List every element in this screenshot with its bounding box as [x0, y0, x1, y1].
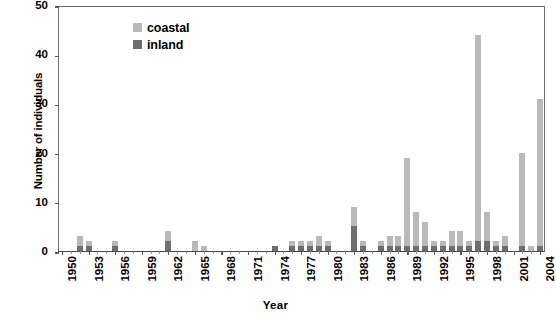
bar-1990 — [413, 212, 419, 251]
x-tick-mark-minor — [97, 251, 98, 254]
bar-segment-coastal — [404, 158, 410, 247]
bar-segment-coastal — [502, 236, 508, 246]
y-tick-mark — [55, 56, 59, 57]
bar-segment-coastal — [112, 241, 118, 246]
bar-1989 — [404, 158, 410, 251]
bar-1992 — [431, 241, 437, 251]
x-tick-mark-major — [354, 251, 355, 255]
x-tick-mark-minor — [133, 251, 134, 254]
bar-1956 — [112, 241, 118, 251]
bar-1962 — [165, 231, 171, 251]
x-tick-mark-minor — [319, 251, 320, 254]
bar-segment-coastal — [449, 231, 455, 246]
x-tick-mark-minor — [425, 251, 426, 254]
x-tick-label: 1998 — [492, 256, 503, 296]
bar-series-container — [59, 7, 544, 251]
x-tick-mark-minor — [230, 251, 231, 254]
x-tick-label: 1971 — [253, 256, 264, 296]
bar-segment-inland — [165, 241, 171, 251]
y-tick-mark — [55, 6, 59, 7]
bar-segment-coastal — [307, 241, 313, 246]
x-tick-mark-minor — [363, 251, 364, 254]
x-tick-mark-minor — [292, 251, 293, 254]
bar-segment-coastal — [165, 231, 171, 241]
bar-2002 — [519, 153, 525, 251]
bar-1965 — [192, 241, 198, 251]
bar-segment-coastal — [325, 241, 331, 246]
x-tick-mark-minor — [345, 251, 346, 254]
bar-segment-coastal — [519, 153, 525, 246]
y-tick-label: 10 — [20, 197, 48, 208]
bar-1998 — [484, 212, 490, 251]
bar-1987 — [387, 236, 393, 251]
x-tick-label: 1962 — [173, 256, 184, 296]
bar-segment-coastal — [289, 241, 295, 246]
bar-segment-coastal — [387, 236, 393, 246]
y-tick-mark — [55, 105, 59, 106]
x-tick-mark-minor — [443, 251, 444, 254]
x-tick-mark-minor — [496, 251, 497, 254]
x-tick-mark-major — [328, 251, 329, 255]
x-tick-label: 1977 — [306, 256, 317, 296]
x-tick-label: 1965 — [200, 256, 211, 296]
bar-1996 — [466, 241, 472, 251]
bar-segment-inland — [475, 241, 481, 251]
x-tick-mark-major — [168, 251, 169, 255]
x-tick-mark-minor — [336, 251, 337, 254]
bar-segment-inland — [351, 226, 357, 251]
x-tick-label: 1974 — [280, 256, 291, 296]
bar-segment-coastal — [431, 241, 437, 246]
x-tick-label: 2004 — [545, 256, 556, 296]
x-tick-label: 1983 — [359, 256, 370, 296]
x-tick-mark-major — [142, 251, 143, 255]
x-tick-label: 1989 — [412, 256, 423, 296]
bar-segment-coastal — [537, 99, 543, 247]
x-tick-mark-minor — [398, 251, 399, 254]
x-tick-mark-major — [62, 251, 63, 255]
bar-segment-coastal — [378, 241, 384, 246]
bar-1997 — [475, 35, 481, 251]
x-tick-label: 1995 — [465, 256, 476, 296]
x-tick-label: 1968 — [226, 256, 237, 296]
bar-segment-coastal — [316, 236, 322, 246]
x-tick-mark-minor — [283, 251, 284, 254]
bar-1988 — [395, 236, 401, 251]
bar-2004 — [537, 98, 543, 251]
y-tick-label: 40 — [20, 49, 48, 60]
bar-segment-inland — [484, 241, 490, 251]
y-tick-label: 20 — [20, 148, 48, 159]
x-tick-mark-major — [407, 251, 408, 255]
bar-segment-coastal — [413, 212, 419, 246]
bar-segment-coastal — [351, 207, 357, 227]
bar-1995 — [457, 231, 463, 251]
x-tick-mark-major — [89, 251, 90, 255]
bar-2000 — [502, 236, 508, 251]
x-tick-mark-minor — [204, 251, 205, 254]
x-tick-mark-major — [275, 251, 276, 255]
bar-1979 — [316, 236, 322, 251]
bar-1986 — [378, 241, 384, 251]
bar-1984 — [360, 241, 366, 251]
x-tick-mark-minor — [372, 251, 373, 254]
x-tick-mark-major — [381, 251, 382, 255]
y-tick-label: 30 — [20, 98, 48, 109]
y-tick-label: 0 — [20, 246, 48, 257]
bar-1977 — [298, 241, 304, 251]
plot-area: coastalinland — [58, 6, 545, 252]
y-tick-mark — [55, 154, 59, 155]
x-tick-mark-minor — [151, 251, 152, 254]
x-tick-mark-minor — [452, 251, 453, 254]
x-axis-title: Year — [0, 299, 551, 311]
bar-segment-coastal — [493, 241, 499, 246]
y-tick-label: 50 — [20, 0, 48, 11]
x-tick-mark-major — [460, 251, 461, 255]
x-tick-mark-major — [195, 251, 196, 255]
x-tick-mark-minor — [390, 251, 391, 254]
x-tick-mark-minor — [106, 251, 107, 254]
x-tick-mark-major — [540, 251, 541, 255]
x-tick-mark-minor — [124, 251, 125, 254]
x-tick-mark-minor — [186, 251, 187, 254]
bar-segment-coastal — [484, 212, 490, 242]
x-tick-label: 1992 — [439, 256, 450, 296]
